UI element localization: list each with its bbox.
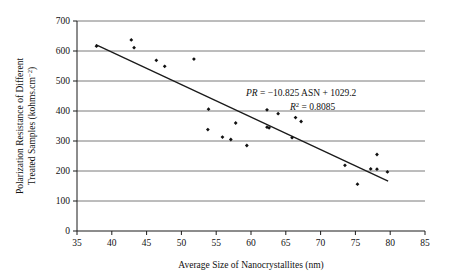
axes-group	[77, 21, 425, 231]
y-axis-tick-label: 600	[56, 46, 71, 56]
y-axis-tick-label: 300	[56, 136, 71, 146]
data-point	[154, 58, 158, 62]
data-point	[132, 46, 136, 50]
x-axis-title: Average Size of Nanocrystallites (nm)	[178, 260, 323, 271]
regression-trendline	[96, 45, 388, 181]
data-point	[299, 120, 303, 124]
scatter-chart-figure: 0100200300400500600700 35404550556065707…	[0, 0, 456, 276]
x-axis-tick-label: 45	[142, 238, 152, 248]
data-point	[276, 112, 280, 116]
data-point	[356, 182, 360, 186]
data-point	[369, 167, 373, 171]
x-axis-tick-label: 40	[107, 238, 117, 248]
x-axis-ticks: 3540455055606570758085	[72, 231, 430, 248]
x-axis-tick-label: 75	[351, 238, 361, 248]
chart-canvas: 0100200300400500600700 35404550556065707…	[0, 0, 456, 276]
y-axis-tick-label: 200	[56, 166, 71, 176]
equation-body: = −10.825 ASN + 1029.2	[258, 88, 357, 98]
x-axis-tick-label: 35	[72, 238, 82, 248]
data-point	[343, 163, 347, 167]
equation-annotation: PR = −10.825 ASN + 1029.2 R2 = 0.8085	[245, 88, 357, 112]
x-axis-tick-label: 80	[385, 238, 395, 248]
x-axis-tick-label: 60	[246, 238, 256, 248]
y-axis-ticks: 0100200300400500600700	[56, 16, 77, 236]
x-axis-title-text: Average Size of Nanocrystallites (nm)	[178, 260, 323, 271]
y-axis-title: Polarization Resistance of Different Tre…	[15, 58, 38, 195]
r-squared-annotation: R2 = 0.8085	[289, 101, 336, 113]
data-point	[163, 64, 167, 68]
data-point	[234, 121, 238, 125]
y-axis-tick-label: 700	[56, 16, 71, 26]
x-axis-tick-label: 85	[420, 238, 430, 248]
y-axis-tick-label: 500	[56, 76, 71, 86]
data-point	[221, 135, 225, 139]
trendline-path	[96, 45, 388, 181]
data-points-group	[95, 38, 390, 186]
regression-equation: PR = −10.825 ASN + 1029.2	[245, 88, 357, 98]
x-axis-tick-label: 70	[316, 238, 326, 248]
y-axis-title-line2-main: Treated Samples (kohms.cm	[27, 76, 38, 185]
y-axis-title-superscript: −2	[26, 70, 33, 77]
data-point	[206, 128, 210, 132]
x-axis-tick-label: 65	[281, 238, 291, 248]
y-axis-title-line1: Polarization Resistance of Different	[15, 58, 25, 195]
y-axis-title-line2: Treated Samples (kohms.cm−2)	[26, 67, 38, 185]
y-axis-tick-label: 100	[56, 196, 71, 206]
data-point	[95, 44, 99, 48]
data-point	[294, 116, 298, 120]
y-axis-title-line2-close: )	[27, 67, 38, 70]
data-point	[192, 57, 196, 61]
y-axis-tick-label: 0	[65, 226, 70, 236]
x-axis-tick-label: 55	[211, 238, 221, 248]
data-point	[129, 38, 133, 42]
y-axis-tick-label: 400	[56, 106, 71, 116]
data-point	[375, 153, 379, 157]
equation-pr-symbol: PR	[245, 88, 258, 98]
data-point	[245, 144, 249, 148]
r-squared-value: = 0.8085	[299, 102, 335, 112]
x-axis-tick-label: 50	[177, 238, 187, 248]
